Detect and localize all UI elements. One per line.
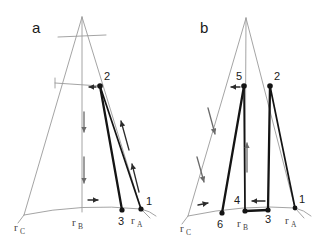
node-label-6-b: 6	[217, 218, 223, 230]
panel-b: 1 2 3 4 5 6 r C r B r A b	[180, 18, 311, 237]
corner-sub-rc-b: C	[186, 228, 191, 237]
arrow-down-upper-icon-b	[208, 108, 215, 134]
panel-b-corner-labels: r C r B r A	[180, 214, 297, 237]
panel-b-nodes	[219, 83, 297, 215]
segment-3-to-4-b	[245, 210, 268, 211]
node-label-3: 3	[118, 215, 124, 227]
node-label-1: 1	[146, 195, 152, 207]
node-dot-5-b	[241, 83, 247, 89]
cone-base-arc	[24, 207, 156, 216]
corner-label-rb-b: r	[237, 217, 241, 229]
corner-label-rb: r	[72, 216, 76, 228]
panel-letter-a: a	[32, 19, 41, 36]
node-label-4-b: 4	[234, 194, 240, 206]
node-dot-1	[138, 206, 143, 211]
segment-2-to-3	[100, 86, 122, 210]
base-tick-rc	[18, 215, 24, 223]
node-label-3-b: 3	[265, 213, 271, 225]
node-dot-3	[119, 207, 124, 212]
node-label-2-b: 2	[274, 70, 280, 82]
node-label-5-b: 5	[236, 70, 242, 82]
segment-5-to-6-b	[222, 86, 244, 213]
segment-4-to-5-b	[244, 86, 245, 211]
segment-1-to-2-b	[270, 86, 295, 208]
node-dot-2	[97, 83, 103, 89]
panel-b-arrows	[197, 87, 265, 205]
corner-label-rc: r	[14, 221, 18, 233]
cone-edge-to-rc	[24, 17, 82, 215]
corner-sub-rb: B	[78, 222, 83, 231]
panel-a-arrows	[84, 87, 139, 200]
node-dot-6-b	[219, 210, 224, 215]
segment-1-to-2	[100, 86, 141, 209]
arrow-up-upper-icon	[121, 121, 129, 150]
corner-label-ra: r	[131, 214, 135, 226]
panel-b-trajectory	[222, 86, 295, 213]
node-label-2: 2	[104, 70, 110, 82]
corner-label-rc-b: r	[180, 222, 184, 234]
panel-a: 1 2 3 r C r B r A a	[14, 17, 156, 236]
corner-label-ra-b: r	[285, 214, 289, 226]
node-label-1-b: 1	[299, 193, 305, 205]
diagram-canvas: 1 2 3 r C r B r A a	[0, 0, 323, 241]
arrow-down-lower-icon-b	[197, 157, 204, 182]
node-dot-2-b	[267, 83, 273, 89]
panel-a-trajectory	[100, 86, 141, 210]
panel-letter-b: b	[200, 19, 208, 36]
node-dot-1-b	[293, 206, 298, 211]
corner-sub-ra-b: A	[291, 220, 297, 229]
arrow-right-base-icon-b	[198, 203, 208, 205]
node-dot-3-b	[265, 207, 270, 212]
corner-sub-rc: C	[20, 227, 25, 236]
figure-container: 1 2 3 r C r B r A a	[0, 0, 323, 241]
node-dot-4-b	[242, 208, 247, 213]
cone-edge-to-rc-b	[188, 18, 246, 216]
corner-sub-ra: A	[137, 220, 143, 229]
corner-sub-rb-b: B	[243, 223, 248, 232]
